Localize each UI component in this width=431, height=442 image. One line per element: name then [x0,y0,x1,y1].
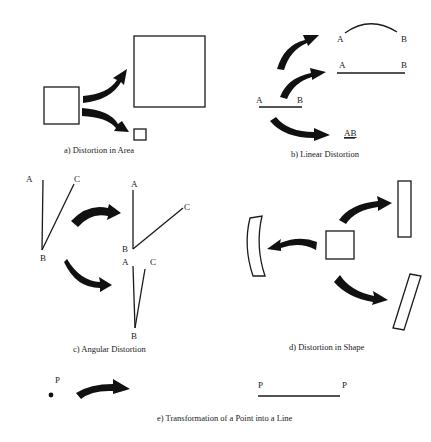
label-a: A [256,95,263,105]
arc-label-a: A [337,34,344,44]
label-b: B [297,95,303,105]
arrow-up-right-icon [83,69,127,103]
caption-b: b) Linear Distortion [291,149,360,159]
point-p [49,393,54,398]
panel-d-distortion-in-shape: d) Distortion in Shape [247,181,421,352]
arrow-to-wider-angle-icon [71,204,121,227]
shortened-line-label: AB [344,128,357,138]
original-ray-ba [42,180,43,250]
orig-label-c: C [74,174,80,184]
arrow-to-short-line-icon [270,117,330,141]
arc-label-b: B [401,34,407,44]
curved-rectangle [247,216,265,276]
point-label-p: P [55,375,60,385]
curved-line [345,24,397,33]
caption-d: d) Distortion in Shape [289,342,365,352]
original-square [326,231,354,259]
orig-label-b: B [40,253,46,263]
arrow-to-curved-icon [267,239,317,251]
line-label-left-p: P [258,380,263,390]
wide-ray-bc [133,208,183,249]
reduced-square [134,129,146,140]
arrow-point-to-line-icon [76,379,130,399]
panel-e-point-into-line: P P P e) Transformation of a Point into … [49,375,347,423]
arrow-to-elongated-icon [339,196,392,224]
caption-a: a) Distortion in Area [64,145,134,155]
long-label-a: A [339,60,346,70]
enlarged-square [134,36,205,107]
panel-b-linear-distortion: A B A B A B AB b) Linear Distortion [256,24,407,159]
panel-c-angular-distortion: A C B A C B A C B c) Angular Distortion [26,174,190,354]
arrow-to-slanted-icon [334,275,388,305]
arrow-down-right-icon [82,108,129,132]
map-distortion-figure: a) Distortion in Area A B A B A B AB b) … [0,0,431,442]
narrow-label-b: B [131,331,137,341]
arrow-to-narrower-angle-icon [64,259,112,292]
original-square [44,87,79,124]
narrow-label-a: A [122,257,129,267]
elongated-rectangle [398,181,411,237]
wide-label-a: A [131,179,138,189]
slanted-rectangle [393,274,421,330]
orig-label-a: A [26,174,33,184]
narrow-ray-bc [135,269,145,328]
narrow-label-c: C [150,257,156,267]
long-label-b: B [401,60,407,70]
narrow-ray-ba [133,266,135,328]
line-label-right-p: P [342,380,347,390]
caption-c: c) Angular Distortion [73,344,146,354]
panel-a-distortion-in-area: a) Distortion in Area [44,36,205,155]
wide-label-c: C [184,202,190,212]
original-ray-bc [42,184,74,250]
arrow-to-curve-icon [277,35,319,70]
wide-label-b: B [122,244,128,254]
caption-e: e) Transformation of a Point into a Line [157,413,293,423]
